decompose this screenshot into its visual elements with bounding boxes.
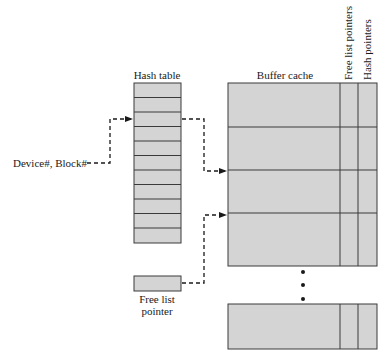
buffer-cache-last-row	[228, 304, 377, 349]
buffer-cache-label: Buffer cache	[257, 69, 313, 81]
device-block-label: Device#, Block#	[13, 157, 87, 169]
hash-pointers-label: Hash pointers	[361, 19, 373, 80]
free-list-pointer-label-line1: Free list	[139, 293, 175, 305]
free-list-pointer-box	[134, 276, 181, 291]
free-list-pointers-label: Free list pointers	[342, 6, 354, 80]
buffer-cache	[228, 83, 377, 266]
lookup-arrow	[87, 119, 132, 163]
ellipsis-dots	[301, 270, 305, 301]
buffer-cache-diagram: Hash table Device#, Block# Free list poi…	[0, 0, 389, 358]
hash-table	[134, 83, 181, 243]
free-list-pointer-label-line2: pointer	[141, 305, 172, 317]
free-list-arrow	[182, 215, 226, 283]
hash-pointer-arrow	[182, 119, 226, 171]
hash-table-label: Hash table	[134, 69, 181, 81]
